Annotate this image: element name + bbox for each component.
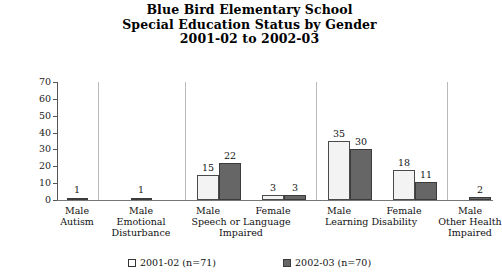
y-tick-20: 20 xyxy=(57,166,58,167)
bar-value-male-learning-disability-2001-02: 35 xyxy=(333,129,345,139)
category-gender-6: Male xyxy=(438,205,501,216)
bar-male-other-health-2002-03 xyxy=(469,197,491,200)
y-tick-label-70: 70 xyxy=(39,77,51,87)
chart-legend: 2001-02 (n=71) 2002-03 (n=70) xyxy=(0,252,499,271)
category-disability-1a: Emotional xyxy=(112,216,171,227)
bar-male-learning-disability-2002-03 xyxy=(350,149,372,200)
legend-item-2002-03: 2002-03 (n=70) xyxy=(283,257,371,268)
category-label-female-speech: Female xyxy=(255,205,290,216)
category-label-male-speech: Male xyxy=(196,205,220,216)
legend-label-2001-02: 2001-02 (n=71) xyxy=(140,257,216,268)
chart-title: Blue Bird Elementary School Special Educ… xyxy=(0,3,499,47)
category-gender-3: Female xyxy=(255,205,290,216)
legend-swatch-icon-2001-02 xyxy=(128,259,136,267)
category-gender-2: Male xyxy=(196,205,220,216)
bar-value-female-speech-2001-02: 3 xyxy=(270,183,276,193)
bar-female-learning-disability-2002-03 xyxy=(415,182,437,201)
bar-value-female-speech-2002-03: 3 xyxy=(292,183,298,193)
y-tick-label-30: 30 xyxy=(39,145,51,155)
y-tick-label-50: 50 xyxy=(39,111,51,121)
title-line-2: Special Education Status by Gender xyxy=(0,18,499,33)
bar-value-female-learning-disability-2001-02: 18 xyxy=(398,158,410,168)
category-separator-3 xyxy=(316,82,317,200)
category-label-male-emotional-disturbance: Male Emotional Disturbance xyxy=(112,205,171,239)
bar-female-speech-2002-03 xyxy=(284,195,306,200)
bar-male-speech-2002-03 xyxy=(219,163,241,200)
y-tick-0: 0 xyxy=(57,200,58,201)
bar-male-autism-2002-03 xyxy=(67,198,88,200)
y-tick-label-60: 60 xyxy=(39,94,51,104)
bar-value-male-speech-2002-03: 22 xyxy=(224,151,236,161)
bar-male-emotional-disturbance-2002-03 xyxy=(131,198,152,200)
y-tick-label-20: 20 xyxy=(39,162,51,172)
category-gender-5: Female xyxy=(386,205,421,216)
y-tick-70: 70 xyxy=(57,82,58,83)
category-separator-2 xyxy=(185,82,186,200)
category-gender-4: Male xyxy=(327,205,351,216)
bar-female-learning-disability-2001-02 xyxy=(393,170,415,200)
bar-value-male-emotional-disturbance-2002-03: 1 xyxy=(138,185,144,195)
category-label-female-learning: Female xyxy=(386,205,421,216)
category-label-learning-disability: Learning Disability xyxy=(325,216,417,227)
category-label-male-learning: Male xyxy=(327,205,351,216)
category-disability-2a: Speech or Language xyxy=(191,216,290,227)
category-disability-4: Learning Disability xyxy=(325,216,417,227)
category-label-male-autism: Male Autism xyxy=(60,205,94,227)
y-tick-10: 10 xyxy=(57,183,58,184)
category-disability-2b: Impaired xyxy=(191,227,290,238)
x-axis-line xyxy=(57,200,493,201)
bar-value-male-autism-2002-03: 1 xyxy=(74,185,80,195)
title-line-3: 2001-02 to 2002-03 xyxy=(0,32,499,47)
y-tick-label-0: 0 xyxy=(45,195,51,205)
category-disability-1b: Disturbance xyxy=(112,227,171,238)
bar-value-female-learning-disability-2002-03: 11 xyxy=(420,170,432,180)
category-disability-6b: Impaired xyxy=(438,227,501,238)
bar-male-speech-2001-02 xyxy=(197,175,219,200)
bar-value-male-speech-2001-02: 15 xyxy=(202,163,214,173)
category-label-male-other-health: Male Other Health Impaired xyxy=(438,205,501,239)
category-gender-1: Male xyxy=(112,205,171,216)
plot-area: 0 10 20 30 40 50 60 70 xyxy=(57,82,493,200)
bar-value-male-learning-disability-2002-03: 30 xyxy=(355,137,367,147)
y-tick-40: 40 xyxy=(57,133,58,134)
category-separator-4 xyxy=(447,82,448,200)
y-tick-30: 30 xyxy=(57,149,58,150)
y-tick-label-10: 10 xyxy=(39,178,51,188)
category-disability-0: Autism xyxy=(60,216,94,227)
category-separator-1 xyxy=(98,82,99,200)
y-tick-label-40: 40 xyxy=(39,128,51,138)
category-disability-6a: Other Health xyxy=(438,216,501,227)
legend-swatch-icon-2002-03 xyxy=(283,259,291,267)
legend-item-2001-02: 2001-02 (n=71) xyxy=(128,257,216,268)
bar-male-learning-disability-2001-02 xyxy=(328,141,350,200)
title-line-1: Blue Bird Elementary School xyxy=(0,3,499,18)
bar-value-male-other-health-2002-03: 2 xyxy=(477,185,483,195)
category-label-speech-disability: Speech or Language Impaired xyxy=(191,216,290,238)
y-tick-50: 50 xyxy=(57,116,58,117)
bar-female-speech-2001-02 xyxy=(262,195,284,200)
y-tick-60: 60 xyxy=(57,99,58,100)
category-gender-0: Male xyxy=(60,205,94,216)
legend-label-2002-03: 2002-03 (n=70) xyxy=(295,257,371,268)
